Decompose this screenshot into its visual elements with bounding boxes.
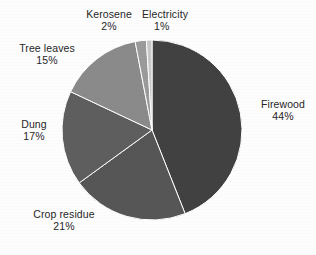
slice-label-dung-name: Dung bbox=[8, 118, 60, 130]
slice-label-crop-residue-percent: 21% bbox=[20, 220, 108, 232]
slice-label-electricity-name: Electricity bbox=[142, 8, 216, 20]
slice-label-kerosene-percent: 2% bbox=[78, 20, 140, 32]
slice-label-electricity-percent: 1% bbox=[142, 20, 216, 32]
slice-label-dung-percent: 17% bbox=[8, 130, 60, 142]
slice-label-firewood-percent: 44% bbox=[252, 110, 314, 122]
slice-label-kerosene: Kerosene 2% bbox=[78, 8, 140, 33]
pie-chart-figure: Kerosene 2% Electricity 1% Tree leaves 1… bbox=[0, 0, 316, 255]
slice-label-dung: Dung 17% bbox=[8, 118, 60, 143]
slice-label-kerosene-name: Kerosene bbox=[78, 8, 140, 20]
slice-label-electricity: Electricity 1% bbox=[142, 8, 216, 33]
slice-label-tree-leaves-name: Tree leaves bbox=[8, 42, 86, 54]
slice-label-crop-residue-name: Crop residue bbox=[20, 208, 108, 220]
slice-label-tree-leaves: Tree leaves 15% bbox=[8, 42, 86, 67]
slice-label-firewood: Firewood 44% bbox=[252, 98, 314, 123]
slice-label-firewood-name: Firewood bbox=[252, 98, 314, 110]
slice-label-tree-leaves-percent: 15% bbox=[8, 54, 86, 66]
slice-label-crop-residue: Crop residue 21% bbox=[20, 208, 108, 233]
